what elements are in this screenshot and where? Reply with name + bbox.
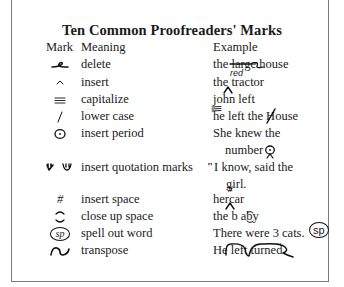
meaning-text: insert period — [81, 126, 144, 141]
meaning-text: insert — [81, 75, 109, 90]
close-up-icon — [40, 209, 80, 225]
page-title: Ten Common Proofreaders' Marks — [0, 22, 344, 39]
example-text: He left turned — [213, 243, 282, 258]
meaning-text: spell out word — [81, 226, 153, 241]
circled-sp-icon: sp — [40, 226, 80, 242]
table-row: transpose He left turned — [0, 243, 344, 259]
example-text: There were 3 cats. — [213, 226, 305, 241]
meaning-text: insert space — [81, 192, 140, 207]
circled-dot-icon — [40, 126, 80, 142]
table-row: delete the large house red — [0, 57, 344, 73]
table-row: # insert space hercar # — [0, 192, 344, 208]
example-text: She knew the — [213, 126, 280, 141]
open-quote-annotation: " — [207, 160, 213, 172]
example-text-continued: number — [225, 143, 263, 158]
example-text: he left the House — [213, 109, 298, 124]
quotation-marks-icon — [40, 160, 80, 176]
meaning-text: capitalize — [81, 92, 129, 107]
triple-underline-icon — [40, 92, 80, 108]
delete-mark-icon — [40, 57, 80, 73]
example-text: the tractor — [213, 75, 264, 90]
slash-icon — [40, 109, 80, 125]
example-text: hercar — [213, 192, 244, 207]
table-row: insert the tractor — [0, 75, 344, 91]
example-text: "I know, said the — [213, 160, 293, 175]
example-text: the large house — [213, 57, 288, 72]
space-annotation-icon: # — [228, 184, 233, 194]
transpose-icon — [40, 243, 80, 259]
meaning-text: delete — [81, 57, 111, 72]
table-row: capitalize john left — [0, 92, 344, 108]
table-row: sp spell out word There were 3 cats. … s… — [0, 226, 344, 242]
meaning-text: lower case — [81, 109, 134, 124]
example-text: the b aby — [213, 209, 259, 224]
column-header-mark: Mark — [46, 40, 73, 55]
caret-icon — [40, 75, 80, 91]
example-text: john left — [213, 92, 255, 107]
meaning-text: close up space — [81, 209, 153, 224]
column-header-meaning: Meaning — [81, 40, 125, 55]
table-row: lower case he left the House — [0, 109, 344, 125]
table-row: close up space the b aby — [0, 209, 344, 225]
meaning-text: transpose — [81, 243, 128, 258]
column-header-example: Example — [213, 40, 257, 55]
spell-out-annotation: sp — [309, 222, 329, 238]
table-row: insert quotation marks "I know, said the… — [0, 160, 344, 176]
table-row: insert period She knew the number — [0, 126, 344, 142]
meaning-text: insert quotation marks — [81, 160, 193, 175]
hash-icon: # — [40, 192, 80, 208]
